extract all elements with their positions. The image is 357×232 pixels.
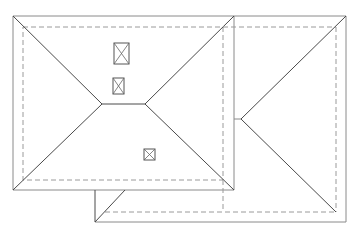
hip-line-bottom-left: [13, 104, 102, 190]
extension-valley-line: [95, 190, 125, 222]
wing-hip-line-bottom: [241, 119, 336, 212]
wing-roof: [95, 16, 346, 222]
hip-line-bottom-right: [145, 104, 234, 190]
main-roof: [13, 16, 234, 190]
skylight-icon: [144, 149, 155, 160]
skylight-icon: [114, 43, 129, 64]
roof-plan-canvas: [0, 0, 357, 232]
wing-hip-line-top: [241, 16, 346, 119]
lower-extension: [95, 190, 125, 222]
hip-line-top-right: [145, 16, 234, 104]
skylight-icon: [113, 78, 124, 94]
roof-plan-diagram: Hip roof plan with attached hip wing and…: [0, 0, 357, 232]
hip-line-top-left: [13, 16, 102, 104]
skylights: [113, 43, 155, 160]
